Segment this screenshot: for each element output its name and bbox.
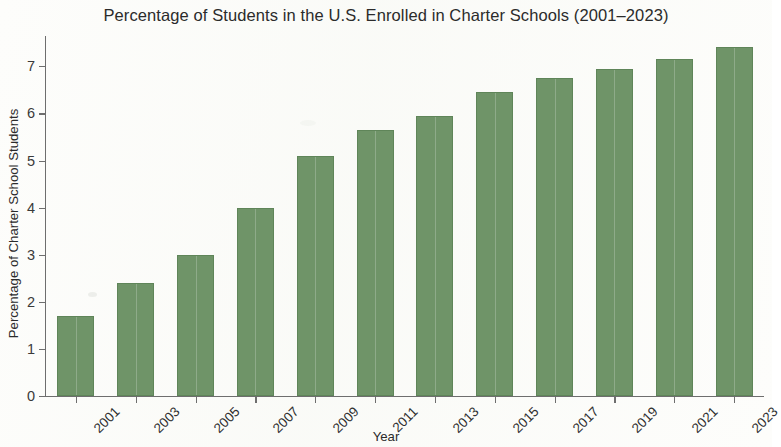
x-tick-mark <box>734 397 735 403</box>
y-tick-label: 6 <box>5 105 35 121</box>
x-tick-mark <box>255 397 256 403</box>
bar <box>297 156 334 396</box>
x-tick-mark <box>196 397 197 403</box>
x-tick-mark <box>614 397 615 403</box>
bar <box>656 59 693 396</box>
y-tick-mark <box>39 255 46 256</box>
y-tick-label: 1 <box>5 341 35 357</box>
y-tick-label: 2 <box>5 294 35 310</box>
x-tick-mark <box>674 397 675 403</box>
y-tick-mark <box>39 396 46 397</box>
x-tick-mark <box>495 397 496 403</box>
y-tick-label: 4 <box>5 200 35 216</box>
bar <box>237 208 274 396</box>
y-tick-label: 7 <box>5 58 35 74</box>
bar <box>357 130 394 396</box>
plot-area <box>46 38 764 396</box>
x-tick-mark <box>136 397 137 403</box>
bar <box>596 69 633 396</box>
y-tick-mark <box>39 302 46 303</box>
x-axis-label: Year <box>0 429 772 444</box>
x-tick-mark <box>315 397 316 403</box>
bar <box>416 116 453 396</box>
y-tick-label: 5 <box>5 153 35 169</box>
x-tick-mark <box>76 397 77 403</box>
y-tick-mark <box>39 349 46 350</box>
bar <box>177 255 214 396</box>
bar <box>57 316 94 396</box>
bar <box>536 78 573 396</box>
y-tick-mark <box>39 161 46 162</box>
y-tick-mark <box>39 113 46 114</box>
y-tick-label: 3 <box>5 247 35 263</box>
x-tick-mark <box>555 397 556 403</box>
x-tick-mark <box>375 397 376 403</box>
y-tick-mark <box>39 66 46 67</box>
x-axis-spine <box>45 396 764 397</box>
bar <box>117 283 154 396</box>
y-tick-label: 0 <box>5 388 35 404</box>
x-tick-mark <box>435 397 436 403</box>
y-tick-mark <box>39 208 46 209</box>
bar <box>476 92 513 396</box>
page-title: Percentage of Students in the U.S. Enrol… <box>0 6 772 25</box>
bar <box>716 47 753 396</box>
